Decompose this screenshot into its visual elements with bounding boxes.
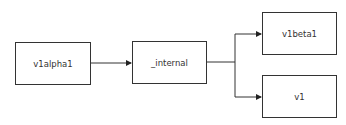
edge-internal-branch	[207, 34, 261, 62]
node-v1alpha1: v1alpha1	[15, 42, 91, 85]
node-label: _internal	[151, 58, 188, 68]
node-v1: v1	[262, 75, 337, 118]
node-internal: _internal	[132, 41, 207, 84]
edge-internal-v1	[235, 62, 261, 97]
node-label: v1alpha1	[33, 59, 72, 69]
node-v1beta1: v1beta1	[262, 12, 337, 55]
node-label: v1beta1	[282, 29, 317, 39]
node-label: v1	[294, 92, 304, 102]
